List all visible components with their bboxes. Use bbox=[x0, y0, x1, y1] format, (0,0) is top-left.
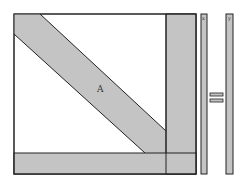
equals-bar-bottom bbox=[210, 99, 223, 102]
right-column-strip bbox=[166, 14, 196, 174]
vector-x bbox=[201, 14, 207, 174]
matrix-vector-diagram: A x y bbox=[0, 0, 243, 184]
vector-y bbox=[226, 14, 233, 174]
matrix-label: A bbox=[96, 84, 104, 94]
vector-y-label: y bbox=[227, 15, 231, 22]
bottom-row-strip bbox=[14, 153, 196, 174]
equals-bar-top bbox=[210, 93, 223, 96]
vector-x-label: x bbox=[202, 15, 205, 21]
